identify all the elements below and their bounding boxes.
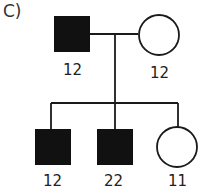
- child-3-label: 11: [168, 172, 187, 190]
- father-label: 12: [63, 61, 82, 79]
- pedigree-diagram: C) 12 12 12 22 11: [0, 0, 210, 191]
- mother-label: 12: [150, 64, 169, 82]
- child-2-affected-male-symbol: [97, 129, 133, 165]
- child-1-label: 12: [43, 172, 62, 190]
- child-2-label: 22: [104, 172, 123, 190]
- mother-unaffected-female-symbol: [139, 15, 179, 55]
- father-affected-male-symbol: [54, 16, 90, 52]
- panel-label: C): [3, 1, 22, 21]
- child-1-affected-male-symbol: [35, 129, 71, 165]
- child-3-unaffected-female-symbol: [157, 127, 197, 167]
